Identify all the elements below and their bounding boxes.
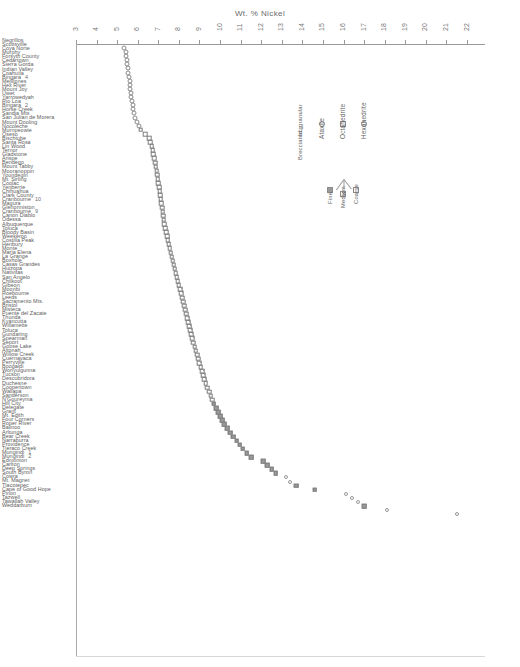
data-point (312, 487, 317, 492)
specimen-name-column: NegrillosScottsvilleCoya NorteMurphyFors… (2, 38, 75, 507)
data-point (362, 504, 367, 509)
data-point (344, 492, 348, 496)
data-point (385, 508, 389, 512)
x-tick-label: 4 (92, 27, 99, 31)
data-point (294, 483, 299, 488)
x-tick-label: 18 (380, 23, 387, 31)
plot-frame-bottom (76, 656, 485, 657)
x-tick-label: 17 (360, 23, 367, 31)
data-point (350, 496, 354, 500)
x-tick-label: 22 (463, 23, 470, 31)
data-point (273, 471, 278, 476)
x-tick-label: 7 (154, 27, 161, 31)
x-tick-label: 5 (113, 27, 120, 31)
x-tick-label: 6 (133, 27, 140, 31)
legend-label-brecciated: Brecciated, granular (297, 104, 303, 160)
x-tick-label: 12 (257, 23, 264, 31)
x-tick-label: 21 (442, 23, 449, 31)
data-point (249, 455, 254, 460)
legend-label-coarse: Coarse (353, 184, 359, 204)
data-point (284, 475, 288, 479)
legend: Hexahedrite Octahedrite Ataxite bcg Brec… (300, 118, 410, 248)
x-tick-label: 10 (216, 23, 223, 31)
legend-label-hexahedrite: Hexahedrite (360, 102, 367, 139)
x-tick-label: 20 (421, 23, 428, 31)
data-point (288, 480, 292, 484)
legend-label-medium: Medium (340, 186, 346, 208)
chart-title: Wt. % Nickel (0, 9, 520, 18)
x-tick-label: 13 (277, 23, 284, 31)
legend-label-ataxite: Ataxite (318, 118, 325, 139)
x-tick-label: 14 (298, 23, 305, 31)
x-tick-label: 3 (72, 27, 79, 31)
plot-area (76, 44, 485, 656)
x-tick-label: 19 (401, 23, 408, 31)
x-tick-label: 8 (174, 27, 181, 31)
x-tick-label: 15 (318, 23, 325, 31)
data-point (455, 512, 459, 516)
x-tick-label: 16 (339, 23, 346, 31)
chart-page: Wt. % Nickel 345678910111213141516171819… (0, 0, 520, 667)
x-tick-label: 9 (195, 27, 202, 31)
legend-label-fine: Fine (327, 192, 333, 204)
specimen-number: 10 (31, 196, 41, 202)
data-point (356, 500, 360, 504)
legend-label-octahedrite: Octahedrite (339, 104, 346, 139)
x-tick-label: 11 (236, 23, 243, 31)
specimen-name-label: Weddarburn (2, 502, 32, 508)
